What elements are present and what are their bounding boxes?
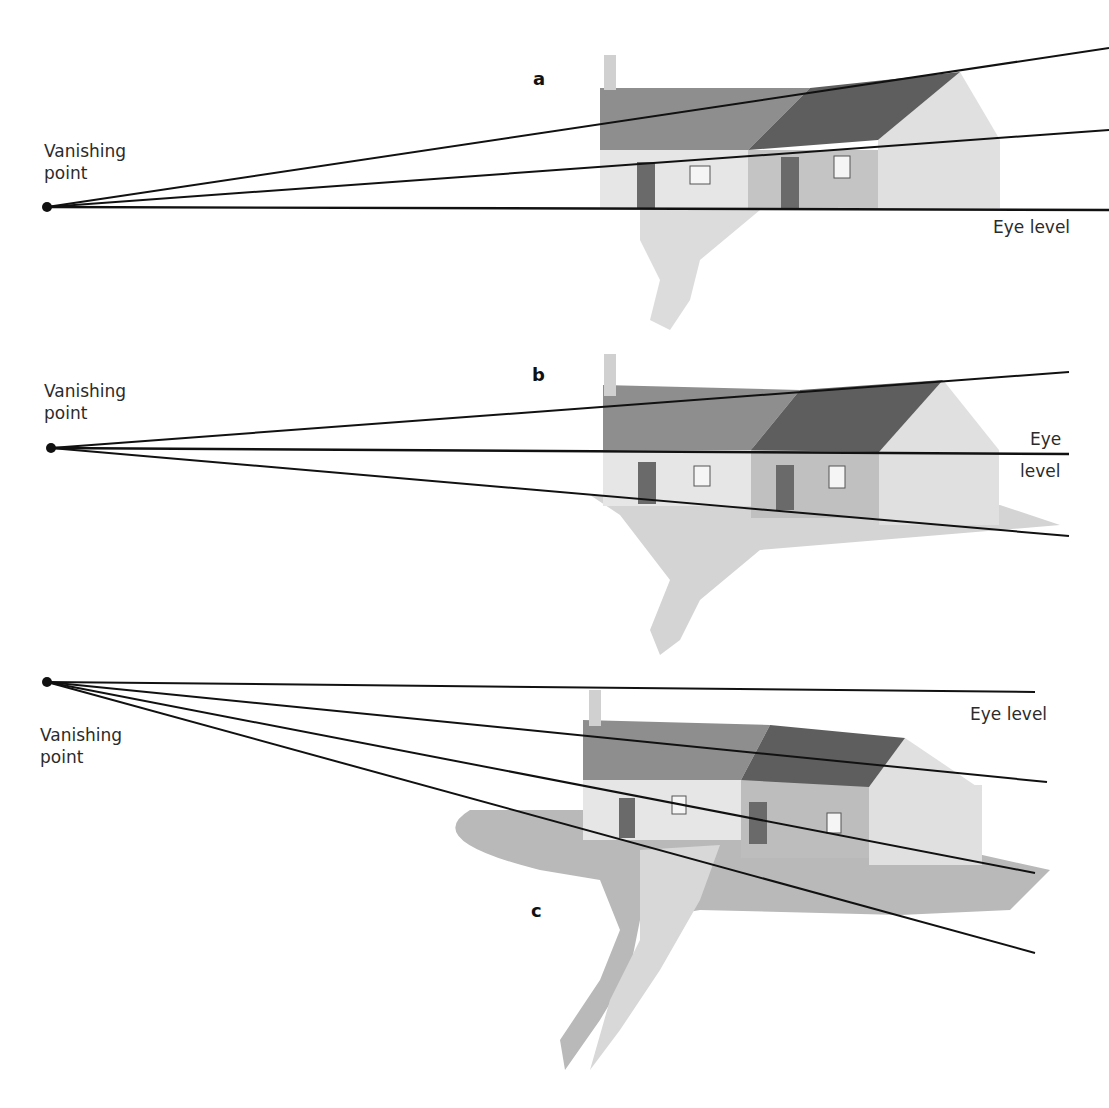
perspective-drawing-a	[0, 0, 1109, 340]
panel-letter: a	[533, 68, 545, 89]
vanishing-point-label: Vanishing point	[44, 380, 126, 424]
vanishing-point-label: Vanishing point	[44, 140, 126, 184]
vanishing-point-dot	[46, 443, 56, 453]
vanishing-point-dot	[42, 202, 52, 212]
eye-level-label: Eye	[1030, 428, 1061, 450]
panel-a: a Vanishing point Eye level	[0, 0, 1109, 340]
eye-level-label: Eye level	[970, 703, 1047, 725]
vanishing-point-label: Vanishing point	[40, 724, 122, 768]
panel-c: c Vanishing point Eye level	[0, 670, 1109, 1108]
perspective-drawing-c	[0, 670, 1109, 1108]
panel-letter: c	[531, 900, 542, 921]
eye-level-label: Eye level	[993, 216, 1070, 238]
eye-level-label-line2: level	[1020, 460, 1060, 482]
vanishing-point-dot	[42, 677, 52, 687]
panel-b: b Vanishing point Eye level	[0, 340, 1109, 670]
perspective-drawing-b	[0, 340, 1109, 670]
panel-letter: b	[532, 364, 545, 385]
